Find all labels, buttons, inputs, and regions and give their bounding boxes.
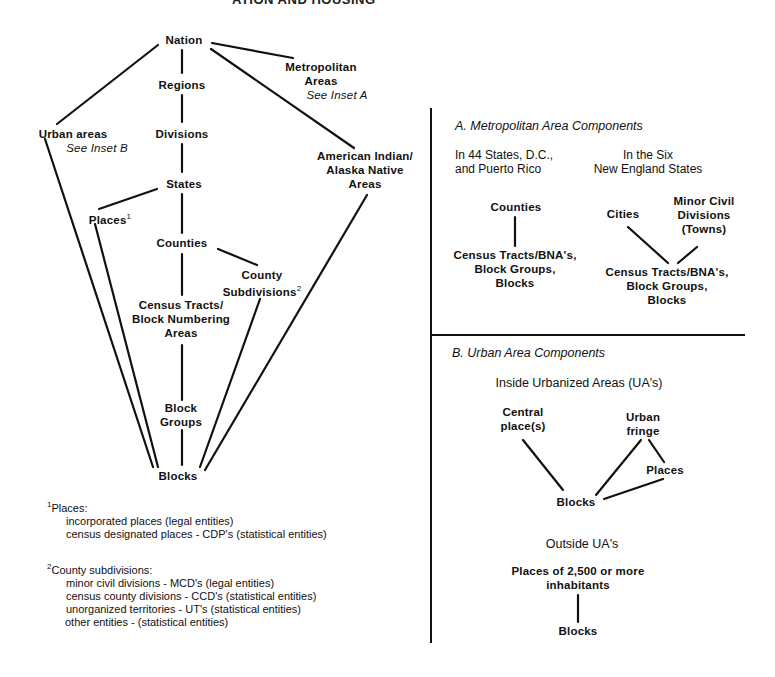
node-metro-line2: Areas <box>285 74 356 88</box>
footnote-county-sub-item: minor civil divisions - MCD's (legal ent… <box>47 577 316 590</box>
inset-b-outside-heading: Outside UA's <box>546 537 619 551</box>
inset-a-left-tracts-line3: Blocks <box>453 276 576 290</box>
inset-a-node-counties: Counties <box>491 200 542 214</box>
footnote-places: 1Places: incorporated places (legal enti… <box>47 498 327 541</box>
vertical-divider <box>430 108 432 643</box>
inset-b-places-2500-line2: inhabitants <box>511 578 644 592</box>
footnote-county-sub-item: unorganized territories - UT's (statisti… <box>47 603 316 616</box>
line-b-fringe-places <box>649 440 664 462</box>
inset-b-fringe-line2: fringe <box>626 424 660 438</box>
node-aian-line1: American Indian/ <box>317 149 413 163</box>
node-tracts-line2: Block Numbering <box>132 312 230 326</box>
footnote-county-sub-item: census county divisions - CCD's (statist… <box>47 590 316 603</box>
horizontal-divider <box>431 334 745 336</box>
inset-b-places-2500-line1: Places of 2,500 or more <box>511 564 644 578</box>
node-block-groups: Block Groups <box>160 401 202 429</box>
line-b-fringe-blocks <box>596 440 641 495</box>
inset-b-node-blocks: Blocks <box>557 495 596 509</box>
node-states: States <box>166 177 202 191</box>
node-regions: Regions <box>159 78 206 92</box>
footnote-places-title: Places: <box>51 502 87 514</box>
line-counties-countysub <box>218 249 257 265</box>
line-states-places <box>99 189 157 209</box>
node-metro-line1: Metropolitan <box>285 60 356 74</box>
node-counties: Counties <box>157 236 208 250</box>
inset-a-right-tracts-line3: Blocks <box>605 293 728 307</box>
line-nation-urban <box>57 45 158 124</box>
inset-a-node-left-tracts: Census Tracts/BNA's, Block Groups, Block… <box>453 248 576 290</box>
inset-b-central-line1: Central <box>500 405 545 419</box>
inset-a-left-heading-line2: and Puerto Rico <box>455 162 553 176</box>
line-nation-metro <box>212 43 293 58</box>
node-metropolitan-areas: Metropolitan Areas <box>285 60 356 88</box>
footnote-county-subdivisions: 2County subdivisions: minor civil divisi… <box>47 560 316 629</box>
node-aian-line2: Alaska Native <box>317 163 413 177</box>
inset-a-mcd-line1: Minor Civil <box>674 194 735 208</box>
node-county-subdivisions: County Subdivisions2 <box>223 268 302 299</box>
inset-b-node-places-2500: Places of 2,500 or more inhabitants <box>511 564 644 592</box>
node-census-tracts: Census Tracts/ Block Numbering Areas <box>132 298 230 340</box>
footnote-places-item: incorporated places (legal entities) <box>47 515 327 528</box>
node-aian-line3: Areas <box>317 177 413 191</box>
node-places: Places1 <box>89 210 131 227</box>
inset-a-right-heading-line1: In the Six <box>594 148 703 162</box>
node-county-sub-line2: Subdivisions <box>223 286 297 298</box>
inset-b-central-line2: place(s) <box>500 419 545 433</box>
inset-a-left-tracts-line2: Block Groups, <box>453 262 576 276</box>
node-blocks: Blocks <box>159 469 198 483</box>
node-urban-areas: Urban areas <box>39 127 108 141</box>
inset-a-left-tracts-line1: Census Tracts/BNA's, <box>453 248 576 262</box>
node-american-indian-alaska-native-areas: American Indian/ Alaska Native Areas <box>317 149 413 191</box>
line-places-blocks <box>95 224 158 467</box>
inset-b-fringe-line1: Urban <box>626 410 660 424</box>
node-tracts-line1: Census Tracts/ <box>132 298 230 312</box>
inset-b-node-places: Places <box>646 463 684 477</box>
node-places-label: Places <box>89 214 127 226</box>
footnote-marker-2: 2 <box>297 284 302 293</box>
node-county-sub-line1: County <box>223 268 302 282</box>
line-b-places-blocks <box>604 479 663 499</box>
inset-b-node-urban-fringe: Urban fringe <box>626 410 660 438</box>
node-block-groups-line2: Groups <box>160 415 202 429</box>
node-block-groups-line1: Block <box>160 401 202 415</box>
footnote-county-sub-item: other entities - (statistical entities) <box>47 616 316 629</box>
footnote-places-item: census designated places - CDP's (statis… <box>47 528 327 541</box>
inset-b-title: B. Urban Area Components <box>452 346 605 360</box>
inset-a-node-minor-civil-divisions: Minor Civil Divisions (Towns) <box>674 194 735 236</box>
urban-inset-reference: See Inset B <box>66 141 128 155</box>
node-divisions: Divisions <box>156 127 209 141</box>
inset-a-right-heading: In the Six New England States <box>594 148 703 176</box>
inset-b-node-central-places: Central place(s) <box>500 405 545 433</box>
line-a-cities-tracts <box>628 227 668 263</box>
metro-inset-reference: See Inset A <box>306 88 367 102</box>
inset-a-right-tracts-line2: Block Groups, <box>605 279 728 293</box>
inset-a-right-tracts-line1: Census Tracts/BNA's, <box>605 265 728 279</box>
inset-b-inside-heading: Inside Urbanized Areas (UA's) <box>495 376 662 390</box>
inset-a-mcd-line3: (Towns) <box>674 222 735 236</box>
inset-b-node-outside-blocks: Blocks <box>559 624 598 638</box>
inset-a-mcd-line2: Divisions <box>674 208 735 222</box>
line-b-central-blocks <box>523 440 563 490</box>
inset-a-right-heading-line2: New England States <box>594 162 703 176</box>
inset-a-left-heading-line1: In 44 States, D.C., <box>455 148 553 162</box>
footnote-county-sub-title: County subdivisions: <box>51 564 152 576</box>
inset-a-node-cities: Cities <box>607 207 640 221</box>
node-nation: Nation <box>166 33 203 47</box>
line-a-mcd-tracts <box>678 247 697 263</box>
inset-a-left-heading: In 44 States, D.C., and Puerto Rico <box>455 148 553 176</box>
inset-a-title: A. Metropolitan Area Components <box>455 119 643 133</box>
node-tracts-line3: Areas <box>132 326 230 340</box>
footnote-marker-1: 1 <box>127 212 132 221</box>
inset-a-node-right-tracts: Census Tracts/BNA's, Block Groups, Block… <box>605 265 728 307</box>
